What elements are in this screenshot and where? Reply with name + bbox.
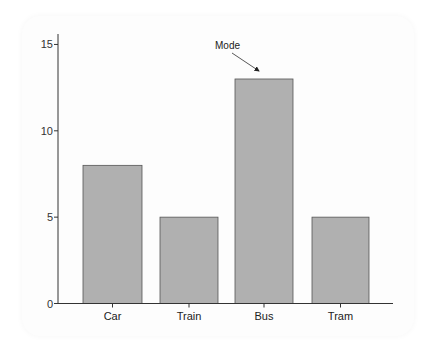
x-tick-label-tram: Tram xyxy=(328,310,353,322)
bar-car xyxy=(83,165,142,303)
x-tick-label-train: Train xyxy=(177,310,202,322)
x-ticks: CarTrainBusTram xyxy=(104,304,354,322)
bars-group xyxy=(83,79,369,304)
bar-bus xyxy=(235,79,293,304)
y-tick-label: 10 xyxy=(41,125,53,137)
bar-train xyxy=(160,217,218,303)
x-tick-label-bus: Bus xyxy=(255,310,274,322)
mode-annotation-arrow-icon xyxy=(232,53,259,71)
bar-tram xyxy=(312,217,369,303)
y-tick-label: 0 xyxy=(47,298,53,310)
y-ticks: 051015 xyxy=(41,38,58,309)
mode-annotation-label: Mode xyxy=(215,40,240,51)
y-tick-label: 5 xyxy=(47,211,53,223)
bar-chart: 051015 CarTrainBusTram Mode xyxy=(0,0,433,352)
y-tick-label: 15 xyxy=(41,38,53,50)
x-tick-label-car: Car xyxy=(104,310,122,322)
